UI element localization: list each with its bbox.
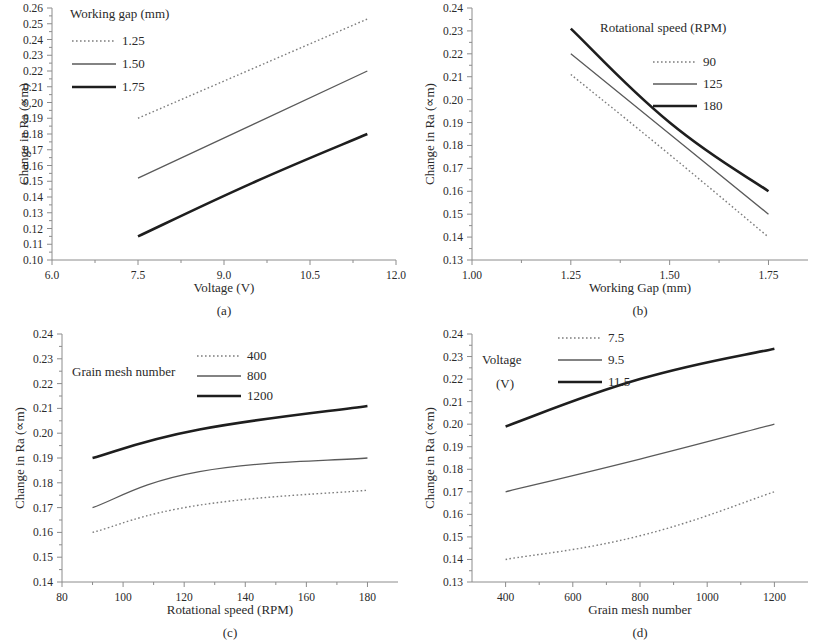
legend-label-b-2: 180 xyxy=(703,98,723,113)
legend-title-d: Voltage xyxy=(482,352,522,367)
y-tick-label-d-6: 0.19 xyxy=(443,441,463,453)
y-tick-label-b-6: 0.19 xyxy=(443,117,463,129)
chart-a-svg: 0.100.110.120.130.140.150.160.170.180.19… xyxy=(0,0,410,320)
y-tick-label-a-0: 0.10 xyxy=(23,254,43,266)
y-tick-label-b-0: 0.13 xyxy=(443,254,463,266)
y-tick-label-b-11: 0.24 xyxy=(443,2,463,14)
y-tick-label-a-1: 0.11 xyxy=(23,238,43,250)
y-axis-title-c: Change in Ra (∝m) xyxy=(12,407,27,509)
series-line-a-2 xyxy=(138,134,367,236)
legend-c: Grain mesh number 400 800 1200 xyxy=(72,348,273,403)
x-axis-title-b: Working Gap (mm) xyxy=(589,280,691,295)
y-tick-label-c-3: 0.17 xyxy=(33,502,53,514)
legend-label-c-1: 800 xyxy=(247,368,267,383)
legend-d: Voltage (V) 7.5 9.5 11.5 xyxy=(482,330,630,391)
panel-caption-c: (c) xyxy=(223,625,237,640)
x-tick-label-c-4: 160 xyxy=(298,591,316,603)
series-line-d-0 xyxy=(506,492,775,560)
x-tick-label-a-1: 7.5 xyxy=(131,269,146,281)
x-ticks-a: 6.07.59.010.512.0 xyxy=(45,260,407,281)
chart-panel-d: 0.130.140.150.160.170.180.190.200.210.22… xyxy=(410,320,818,642)
y-tick-label-c-6: 0.20 xyxy=(33,427,53,439)
chart-b-axes xyxy=(472,8,808,260)
panel-caption-d: (d) xyxy=(632,625,647,640)
series-line-a-1 xyxy=(138,71,367,178)
legend-title-b: Rotational speed (RPM) xyxy=(600,20,726,35)
y-tick-label-d-7: 0.20 xyxy=(443,418,463,430)
y-tick-label-a-4: 0.14 xyxy=(23,191,43,203)
y-tick-label-a-3: 0.13 xyxy=(23,207,43,219)
x-tick-label-d-3: 1000 xyxy=(696,591,719,603)
y-tick-label-b-5: 0.18 xyxy=(443,139,463,151)
legend-b: Rotational speed (RPM) 90 125 180 xyxy=(600,20,726,113)
chart-c-svg: 0.140.150.160.170.180.190.200.210.220.23… xyxy=(0,320,410,642)
legend-label-a-0: 1.25 xyxy=(122,33,145,48)
series-line-b-0 xyxy=(571,74,769,237)
y-tick-label-d-9: 0.22 xyxy=(443,373,463,385)
series-line-b-1 xyxy=(571,54,769,214)
series-line-c-1 xyxy=(93,458,368,508)
chart-panel-a: 0.100.110.120.130.140.150.160.170.180.19… xyxy=(0,0,410,320)
y-tick-label-c-0: 0.14 xyxy=(33,576,53,588)
y-tick-label-c-7: 0.21 xyxy=(33,402,53,414)
legend-label-a-2: 1.75 xyxy=(122,79,145,94)
y-tick-label-d-10: 0.23 xyxy=(443,351,463,363)
y-ticks-b: 0.130.140.150.160.170.180.190.200.210.22… xyxy=(443,2,472,266)
y-axis-title-b: Change in Ra (∝m) xyxy=(422,83,437,185)
series-group-b xyxy=(571,29,769,237)
y-tick-label-a-15: 0.25 xyxy=(23,18,43,30)
x-tick-label-b-3: 1.75 xyxy=(758,269,778,281)
y-tick-label-b-7: 0.20 xyxy=(443,94,463,106)
y-tick-label-a-14: 0.24 xyxy=(23,34,43,46)
x-axis-title-d: Grain mesh number xyxy=(588,602,692,617)
y-tick-label-d-5: 0.18 xyxy=(443,463,463,475)
y-tick-label-a-2: 0.12 xyxy=(23,223,43,235)
y-tick-label-c-8: 0.22 xyxy=(33,378,53,390)
x-tick-label-d-4: 1200 xyxy=(763,591,786,603)
series-line-b-2 xyxy=(571,29,769,192)
series-group-d xyxy=(506,349,775,560)
chart-a-axes xyxy=(52,8,396,260)
legend-label-d-1: 9.5 xyxy=(608,352,624,367)
chart-d-axes xyxy=(472,334,808,582)
series-group-c xyxy=(93,406,368,532)
y-tick-label-b-1: 0.14 xyxy=(443,231,463,243)
y-tick-label-b-8: 0.21 xyxy=(443,71,463,83)
legend-title-a: Working gap (mm) xyxy=(70,6,169,21)
chart-panel-b: 0.130.140.150.160.170.180.190.200.210.22… xyxy=(410,0,818,320)
y-ticks-c: 0.140.150.160.170.180.190.200.210.220.23… xyxy=(33,328,62,588)
legend-label-b-0: 90 xyxy=(703,54,716,69)
y-tick-label-d-11: 0.24 xyxy=(443,328,463,340)
x-tick-label-d-0: 400 xyxy=(497,591,514,603)
y-tick-label-d-8: 0.21 xyxy=(443,396,463,408)
legend-a: Working gap (mm) 1.25 1.50 1.75 xyxy=(70,6,169,94)
y-tick-label-a-12: 0.22 xyxy=(23,65,43,77)
x-tick-label-b-1: 1.25 xyxy=(561,269,581,281)
chart-panel-c: 0.140.150.160.170.180.190.200.210.220.23… xyxy=(0,320,410,642)
y-tick-label-b-2: 0.15 xyxy=(443,208,463,220)
series-line-c-0 xyxy=(93,490,368,532)
y-tick-label-a-13: 0.23 xyxy=(23,49,43,61)
y-tick-label-d-1: 0.14 xyxy=(443,553,463,565)
y-tick-label-c-2: 0.16 xyxy=(33,526,53,538)
series-line-a-0 xyxy=(138,19,367,118)
series-line-d-2 xyxy=(506,349,775,427)
series-line-d-1 xyxy=(506,424,775,492)
x-axis-title-a: Voltage (V) xyxy=(194,280,255,295)
y-tick-label-d-0: 0.13 xyxy=(443,576,463,588)
y-tick-label-c-4: 0.18 xyxy=(33,477,53,489)
y-tick-label-d-3: 0.16 xyxy=(443,508,463,520)
legend-label-d-0: 7.5 xyxy=(608,330,624,345)
y-tick-label-c-5: 0.19 xyxy=(33,452,53,464)
x-tick-label-c-5: 180 xyxy=(359,591,377,603)
y-tick-label-b-3: 0.16 xyxy=(443,185,463,197)
x-tick-label-c-0: 80 xyxy=(56,591,68,603)
legend-label-d-2: 11.5 xyxy=(608,374,630,389)
y-axis-title-a: Change in Ra (∝m) xyxy=(16,83,31,185)
y-tick-label-b-9: 0.22 xyxy=(443,48,463,60)
x-tick-label-d-1: 600 xyxy=(564,591,582,603)
y-tick-label-c-9: 0.23 xyxy=(33,353,53,365)
y-ticks-d: 0.130.140.150.160.170.180.190.200.210.22… xyxy=(443,328,472,588)
y-tick-label-c-10: 0.24 xyxy=(33,328,53,340)
x-ticks-c: 80100120140160180 xyxy=(56,582,376,603)
